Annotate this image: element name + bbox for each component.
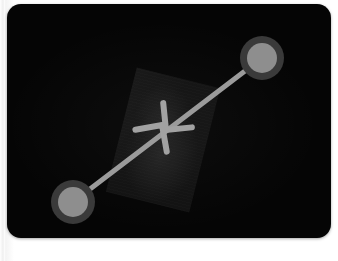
touch-point-bottom-left[interactable] [51,180,95,224]
pinch-zoom-out-gesture [7,4,331,238]
caption-strip [9,246,309,258]
photo-viewer-screen[interactable] [7,4,331,238]
page-left-edge [0,0,5,261]
screenshot-root [0,0,338,261]
touch-point-top-right[interactable] [240,36,284,80]
